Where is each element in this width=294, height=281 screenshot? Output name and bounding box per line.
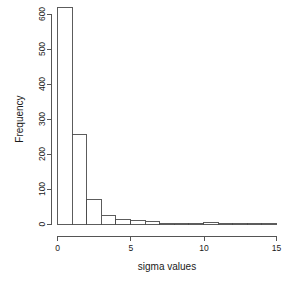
y-axis-tick-labels: 0 100 200 300 400 500 600 bbox=[37, 7, 47, 227]
x-tick-label-0: 0 bbox=[55, 243, 60, 253]
x-tick-label-5: 5 bbox=[128, 243, 133, 253]
histogram-bar bbox=[174, 223, 189, 224]
histogram-bar bbox=[87, 200, 102, 225]
x-axis-title: sigma values bbox=[138, 261, 196, 272]
y-tick-label-400: 400 bbox=[37, 77, 47, 91]
y-tick-label-200: 200 bbox=[37, 147, 47, 161]
histogram-canvas: 0 100 200 300 400 500 600 Frequency 0 5 … bbox=[0, 0, 294, 281]
histogram-bar bbox=[247, 224, 262, 225]
histogram-bar bbox=[233, 224, 248, 225]
histogram-bar bbox=[116, 219, 131, 224]
histogram-bar bbox=[131, 221, 146, 224]
x-axis-ticks bbox=[58, 237, 277, 242]
histogram-bar bbox=[145, 221, 160, 224]
y-axis-ticks bbox=[47, 14, 52, 224]
y-axis-title: Frequency bbox=[14, 95, 25, 142]
histogram-bars bbox=[58, 7, 277, 224]
histogram-bar bbox=[204, 223, 219, 224]
histogram-bar bbox=[101, 215, 116, 224]
histogram-bar bbox=[58, 7, 73, 224]
y-tick-label-600: 600 bbox=[37, 7, 47, 21]
y-tick-label-300: 300 bbox=[37, 112, 47, 126]
y-tick-label-0: 0 bbox=[37, 221, 47, 226]
histogram-bar bbox=[262, 223, 277, 224]
x-tick-label-10: 10 bbox=[199, 243, 209, 253]
x-axis-tick-labels: 0 5 10 15 bbox=[55, 243, 281, 253]
histogram-bar bbox=[72, 135, 87, 224]
x-tick-label-15: 15 bbox=[272, 243, 282, 253]
histogram-bar bbox=[189, 224, 204, 225]
y-tick-label-500: 500 bbox=[37, 42, 47, 56]
histogram-plot: 0 100 200 300 400 500 600 Frequency 0 5 … bbox=[0, 0, 294, 281]
y-tick-label-100: 100 bbox=[37, 182, 47, 196]
histogram-bar bbox=[218, 223, 233, 224]
histogram-bar bbox=[160, 223, 175, 224]
